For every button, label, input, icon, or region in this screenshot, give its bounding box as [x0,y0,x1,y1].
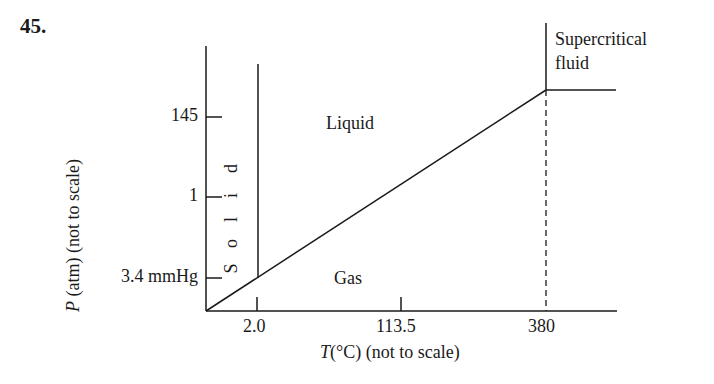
y-axis-label: P (atm) (not to scale) [63,159,84,312]
x-axis-label: T(°C) (not to scale) [320,342,460,363]
region-liquid: Liquid [326,113,374,134]
region-gas: Gas [334,268,362,289]
region-supercritical-line1: Supercritical [555,29,647,50]
gas-boundary-curve [206,90,546,311]
x-tick-label-380: 380 [528,316,555,337]
y-tick-label-145: 145 [171,105,198,126]
y-tick-label-3.4mmHg: 3.4 mmHg [121,266,198,287]
x-tick-label-2.0: 2.0 [243,316,266,337]
x-tick-label-113.5: 113.5 [376,316,416,337]
region-supercritical-line2: fluid [555,53,589,74]
phase-diagram-lines [0,0,714,384]
y-tick-label-1: 1 [189,185,198,206]
